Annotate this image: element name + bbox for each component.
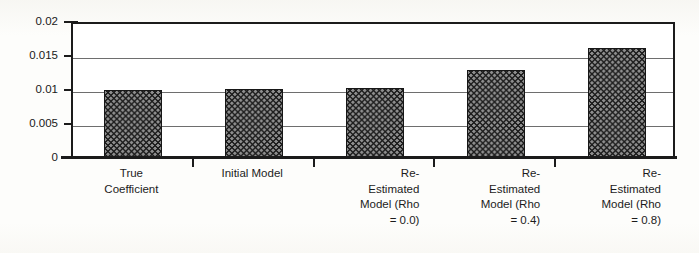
y-axis-tick-label: 0.02 xyxy=(6,16,58,28)
plot-area xyxy=(71,22,675,158)
category-label: Initial Model xyxy=(192,166,313,182)
x-axis-baseline xyxy=(61,156,677,159)
bar xyxy=(467,70,525,158)
bar xyxy=(225,89,283,158)
category-label: Re- Estimated Model (Rho = 0.8) xyxy=(554,166,675,228)
bar xyxy=(346,88,404,158)
category-label: True Coefficient xyxy=(71,166,192,197)
category-label: Re- Estimated Model (Rho = 0.4) xyxy=(433,166,554,228)
y-axis-tick-label: 0.015 xyxy=(6,50,58,62)
y-axis-tick-label: 0.01 xyxy=(6,84,58,96)
bar xyxy=(588,48,646,158)
y-axis-tick-label: 0.005 xyxy=(6,118,58,130)
y-axis-tick-labels: 0.020.0150.010.0050 xyxy=(0,0,58,253)
bar-chart: 0.020.0150.010.0050 True CoefficientInit… xyxy=(0,0,699,253)
y-axis-tick-label: 0 xyxy=(6,152,58,164)
gridline xyxy=(73,58,673,59)
x-axis-category-labels: True CoefficientInitial ModelRe- Estimat… xyxy=(71,166,675,250)
category-label: Re- Estimated Model (Rho = 0.0) xyxy=(313,166,434,228)
bar xyxy=(104,90,162,158)
